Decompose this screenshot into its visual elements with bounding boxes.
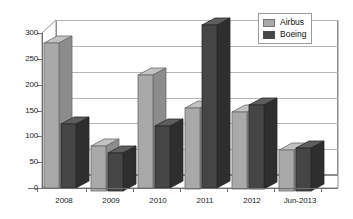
y-axis-label-250: 250 <box>12 55 38 63</box>
y-axis-label-50: 50 <box>12 158 38 166</box>
legend-swatch-boeing <box>263 31 275 39</box>
y-axis-label-200: 200 <box>12 81 38 89</box>
x-tick-0 <box>37 188 38 192</box>
chart-legend: Airbus Boeing <box>258 13 312 44</box>
x-axis-label-2010: 2010 <box>136 196 180 205</box>
y-axis-line <box>42 33 43 188</box>
x-axis-label-jun-2013: Jun-2013 <box>275 196 325 205</box>
x-axis-line <box>28 188 338 189</box>
legend-label-airbus: Airbus <box>280 18 304 27</box>
x-axis-label-2008: 2008 <box>42 196 86 205</box>
x-tick-5 <box>274 188 275 192</box>
x-tick-3 <box>180 188 181 192</box>
x-tick-6 <box>321 188 322 192</box>
legend-swatch-airbus <box>263 19 275 27</box>
x-tick-4 <box>227 188 228 192</box>
bar-jun2013-boeing[interactable] <box>296 141 332 201</box>
y-axis-label-300: 300 <box>12 29 38 37</box>
x-axis-label-2011: 2011 <box>183 196 227 205</box>
y-axis-label-100: 100 <box>12 132 38 140</box>
x-axis-label-2009: 2009 <box>89 196 133 205</box>
y-axis-label-150: 150 <box>12 107 38 115</box>
x-tick-1 <box>86 188 87 192</box>
x-tick-2 <box>133 188 134 192</box>
legend-item-boeing[interactable]: Boeing <box>263 29 306 40</box>
legend-label-boeing: Boeing <box>280 30 306 39</box>
x-axis-label-2012: 2012 <box>230 196 274 205</box>
bar-chart: 300 250 200 150 100 50 0 2008 2009 2010 … <box>0 0 353 219</box>
legend-item-airbus[interactable]: Airbus <box>263 17 306 28</box>
